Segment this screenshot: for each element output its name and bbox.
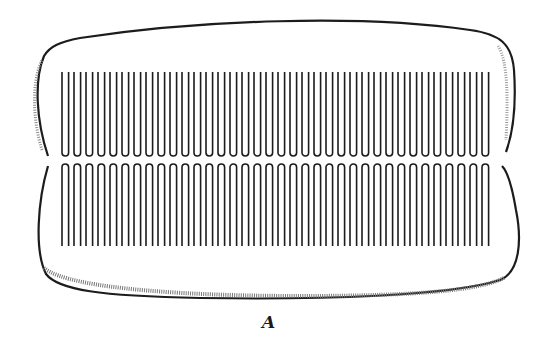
comb-tooth [98,164,105,246]
comb-tooth [434,164,441,246]
upper-frame-outline [38,21,515,156]
comb-tooth [86,164,93,246]
comb-tooth [446,164,453,246]
comb-tooth [338,164,345,246]
comb-tooth [278,72,285,156]
comb-tooth [458,72,465,156]
comb-tooth [206,164,213,246]
comb-tooth [386,72,393,156]
comb-tooth [314,164,321,246]
comb-tooth [170,164,177,246]
comb-tooth [302,164,309,246]
comb-tooth [290,164,297,246]
comb-tooth [62,164,69,246]
comb-tooth [470,164,477,246]
comb-tooth [134,164,141,246]
comb-tooth [182,72,189,156]
comb-tooth [398,164,405,246]
comb-tooth [326,164,333,246]
upper-teeth-row [62,72,489,156]
comb-tooth [98,72,105,156]
comb-tooth [194,164,201,246]
comb-tooth [398,72,405,156]
comb-tooth [362,164,369,246]
comb-tooth [290,72,297,156]
comb-tooth [62,72,69,156]
comb-tooth [218,164,225,246]
comb-tooth [446,72,453,156]
comb-tooth [254,164,261,246]
comb-tooth [314,72,321,156]
comb-tooth [470,72,477,156]
comb-tooth [158,72,165,156]
comb-tooth [194,72,201,156]
comb-tooth [110,164,117,246]
comb-tooth [122,72,129,156]
comb-tooth [422,72,429,156]
lower-frame-shade [44,268,504,296]
comb-tooth [374,164,381,246]
comb-tooth [410,72,417,156]
upper-frame-shade-right [498,46,507,140]
comb-tooth [122,164,129,246]
lower-teeth-row [62,164,489,246]
comb-tooth [74,72,81,156]
comb-tooth [182,164,189,246]
comb-tooth [422,164,429,246]
comb-tooth [458,164,465,246]
comb-tooth [374,72,381,156]
comb-tooth [302,72,309,156]
comb-tooth [230,164,237,246]
comb-tooth [242,164,249,246]
comb-tooth [242,72,249,156]
comb-tooth [146,164,153,246]
comb-tooth [230,72,237,156]
comb-tooth [134,72,141,156]
comb-tooth [434,72,441,156]
figure-caption: A [262,312,275,332]
comb-tooth [170,72,177,156]
comb-tooth [146,72,153,156]
comb-tooth [266,72,273,156]
comb-tooth [86,72,93,156]
comb-tooth [338,72,345,156]
comb-tooth [266,164,273,246]
comb-tooth [110,72,117,156]
comb-tooth [74,164,81,246]
comb-tooth [482,164,489,246]
comb-tooth [158,164,165,246]
comb-tooth [362,72,369,156]
comb-tooth [218,72,225,156]
comb-tooth [482,72,489,156]
comb-tooth [278,164,285,246]
comb-tooth [326,72,333,156]
comb-tooth [254,72,261,156]
comb-tooth [206,72,213,156]
comb-tooth [410,164,417,246]
comb-illustration [0,0,554,344]
comb-tooth [350,164,357,246]
comb-tooth [350,72,357,156]
comb-tooth [386,164,393,246]
